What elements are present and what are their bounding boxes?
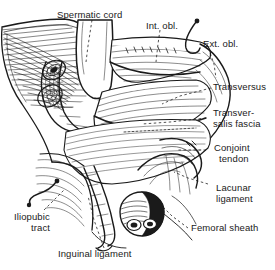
- label-transversalis-fascia-line1: Transver-: [213, 108, 254, 118]
- leader-femoral-sheath: [162, 206, 188, 228]
- label-iliopubic-tract-line1: Iliopubic: [14, 212, 50, 222]
- label-inguinal-ligament: Inguinal ligament: [58, 249, 132, 260]
- label-conjoint-tendon-line2: tendon: [219, 154, 249, 164]
- anatomical-figure: Spermatic cord Int. obl. Ext. obl. Trans…: [0, 0, 275, 270]
- label-transversus: Transversus: [213, 82, 266, 93]
- label-lacunar-ligament-line2: ligament: [216, 194, 253, 204]
- label-spermatic-cord: Spermatic cord: [57, 10, 122, 21]
- label-external-oblique: Ext. obl.: [203, 39, 238, 50]
- leader-inguinal-ligament: [88, 196, 104, 248]
- label-conjoint-tendon-line1: Conjoint: [214, 143, 250, 153]
- label-transversalis-fascia-line2: salis fascia: [213, 119, 261, 129]
- femoral-sheath-structure: [120, 192, 164, 236]
- label-iliopubic-tract-line2: tract: [31, 223, 50, 233]
- label-internal-oblique: Int. obl.: [146, 21, 178, 32]
- label-lacunar-ligament-line1: Lacunar: [216, 183, 251, 193]
- label-femoral-sheath: Femoral sheath: [191, 223, 258, 234]
- spermatic-cord-band: [76, 20, 113, 99]
